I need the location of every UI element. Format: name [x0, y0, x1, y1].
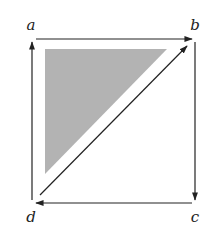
vertex-label-a: a — [27, 16, 36, 34]
shaded-triangle-abd — [45, 49, 167, 174]
commutative-square-diagram: a b c d — [0, 0, 214, 239]
vertex-label-c: c — [191, 208, 200, 226]
vertex-label-b: b — [190, 16, 200, 34]
vertex-label-d: d — [26, 208, 36, 226]
